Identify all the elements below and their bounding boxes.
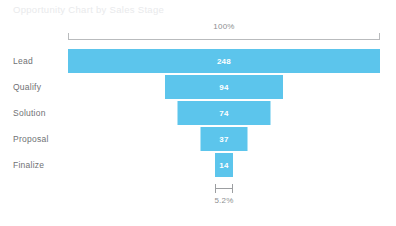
top-scale-line xyxy=(68,39,380,40)
stage-label-qualify: Qualify xyxy=(13,82,41,92)
funnel-bar-finalize[interactable]: 14 xyxy=(215,153,233,177)
top-scale-cap-right xyxy=(379,33,380,40)
funnel-bar-proposal[interactable]: 37 xyxy=(201,127,248,151)
top-scale-axis: 100% xyxy=(68,22,380,44)
funnel-bar-lead[interactable]: 248 xyxy=(68,49,380,73)
bar-value-label: 94 xyxy=(219,83,229,92)
chart-title: Opportunity Chart by Sales Stage xyxy=(13,4,164,15)
funnel-chart-card: Opportunity Chart by Sales Stage 100% Le… xyxy=(0,0,396,226)
bar-track: 74 xyxy=(68,100,380,126)
bottom-scale-label: 5.2% xyxy=(68,196,380,205)
funnel-bar-solution[interactable]: 74 xyxy=(178,101,271,125)
bottom-scale-cap-right xyxy=(232,184,233,193)
funnel-row[interactable]: Qualify94 xyxy=(0,74,396,100)
bar-track: 37 xyxy=(68,126,380,152)
funnel-row[interactable]: Finalize14 xyxy=(0,152,396,178)
bottom-scale-axis: 5.2% xyxy=(68,182,380,212)
top-scale-cap-left xyxy=(68,33,69,40)
bar-track: 248 xyxy=(68,48,380,74)
bar-value-label: 74 xyxy=(219,109,229,118)
bar-value-label: 14 xyxy=(219,161,229,170)
funnel-row[interactable]: Lead248 xyxy=(0,48,396,74)
stage-label-lead: Lead xyxy=(13,56,33,66)
stage-label-finalize: Finalize xyxy=(13,160,44,170)
funnel-row[interactable]: Solution74 xyxy=(0,100,396,126)
bar-value-label: 37 xyxy=(219,135,229,144)
bar-track: 94 xyxy=(68,74,380,100)
stage-label-solution: Solution xyxy=(13,108,46,118)
bottom-scale-cap-left xyxy=(215,184,216,193)
funnel-row[interactable]: Proposal37 xyxy=(0,126,396,152)
funnel-bar-qualify[interactable]: 94 xyxy=(165,75,283,99)
bar-track: 14 xyxy=(68,152,380,178)
top-scale-label: 100% xyxy=(68,22,380,31)
funnel-rows: Lead248Qualify94Solution74Proposal37Fina… xyxy=(0,48,396,178)
bar-value-label: 248 xyxy=(217,57,231,66)
bottom-scale-line xyxy=(215,188,233,189)
stage-label-proposal: Proposal xyxy=(13,134,49,144)
